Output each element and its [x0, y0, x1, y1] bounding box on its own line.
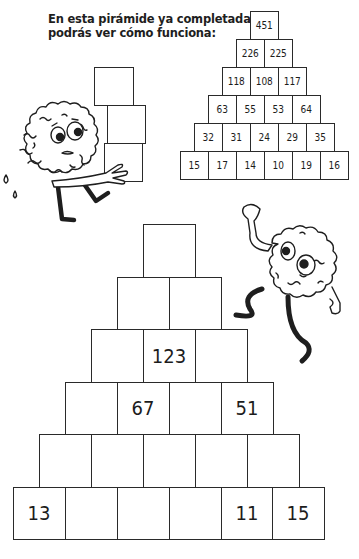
example-cell: 16 [320, 151, 349, 180]
pyramid-cell-input[interactable] [65, 382, 118, 436]
pyramid-cell-input[interactable] [195, 434, 248, 488]
example-cell: 55 [236, 95, 265, 124]
example-cell: 117 [278, 67, 307, 96]
example-cell: 24 [250, 123, 279, 152]
pyramid-cell-input[interactable] [65, 487, 118, 541]
pyramid-cell-input[interactable] [247, 434, 300, 488]
pyramid-cell-input[interactable] [143, 224, 196, 278]
example-cell: 10 [264, 151, 293, 180]
pyramid-cell-given: 123 [143, 329, 196, 383]
example-cell: 15 [180, 151, 209, 180]
pyramid-cell-input[interactable] [195, 329, 248, 383]
pyramid-cell-given: 11 [221, 487, 274, 541]
pyramid-cell-input[interactable] [39, 434, 92, 488]
pyramid-cell-input[interactable] [117, 277, 170, 331]
instructions-line-2: podrás ver cómo funciona: [48, 26, 228, 40]
example-cell: 31 [222, 123, 251, 152]
example-cell: 53 [264, 95, 293, 124]
pyramid-cell-input[interactable] [169, 277, 222, 331]
pyramid-cell-given: 51 [221, 382, 274, 436]
example-cell: 225 [264, 39, 293, 68]
pyramid-cell-given: 67 [117, 382, 170, 436]
example-cell: 35 [306, 123, 335, 152]
brain-character-carrying-boxes-icon [0, 95, 135, 225]
instructions-text: En esta pirámide ya completada podrás ve… [48, 12, 228, 40]
example-cell: 29 [278, 123, 307, 152]
example-cell: 19 [292, 151, 321, 180]
pyramid-cell-input[interactable] [169, 487, 222, 541]
example-cell: 17 [208, 151, 237, 180]
example-cell: 63 [208, 95, 237, 124]
pyramid-cell-input[interactable] [91, 434, 144, 488]
instructions-line-1: En esta pirámide ya completada [48, 12, 228, 26]
brain-character-climbing-icon [228, 203, 359, 370]
example-cell: 118 [222, 67, 251, 96]
pyramid-cell-input[interactable] [117, 487, 170, 541]
pyramid-cell-input[interactable] [143, 434, 196, 488]
pyramid-cell-input[interactable] [169, 382, 222, 436]
example-cell: 226 [236, 39, 265, 68]
example-cell: 64 [292, 95, 321, 124]
example-cell: 14 [236, 151, 265, 180]
example-cell: 32 [194, 123, 223, 152]
pyramid-cell-given: 15 [272, 487, 325, 541]
example-cell: 108 [250, 67, 279, 96]
example-cell: 451 [250, 11, 279, 40]
pyramid-cell-given: 13 [13, 487, 66, 541]
pyramid-cell-input[interactable] [91, 329, 144, 383]
